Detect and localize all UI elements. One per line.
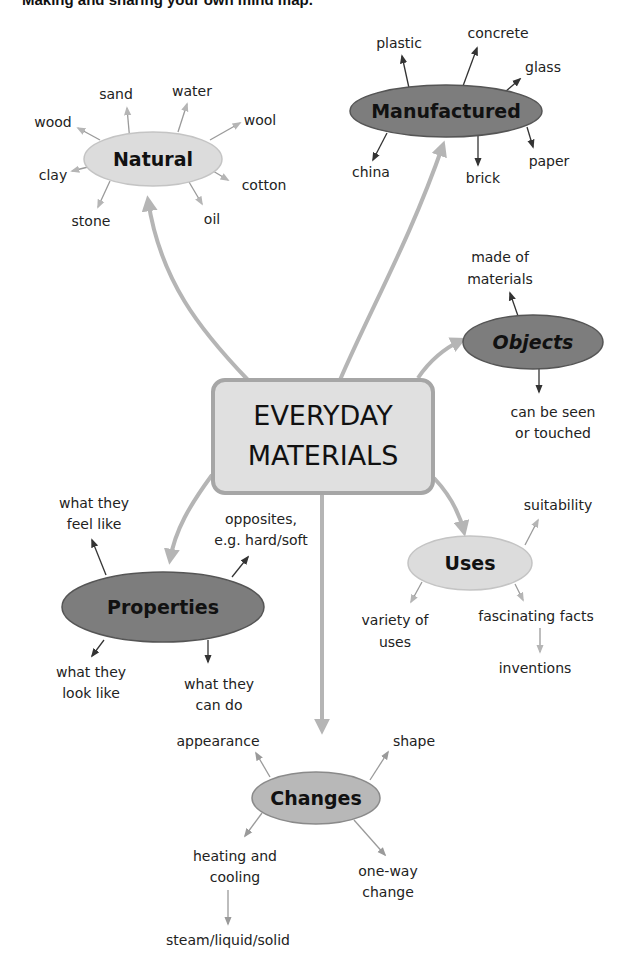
uses-child-inventions: inventions [499, 660, 572, 676]
changes-arrow-appearance [256, 753, 270, 777]
properties-child-feel-l1: what they [59, 495, 129, 511]
uses-child-variety-l2: uses [379, 634, 411, 650]
properties-child-look-l2: look like [62, 685, 120, 701]
node-natural: Natural sand water wood wool clay cotton… [34, 83, 286, 229]
objects-child-seen-l1: can be seen [511, 404, 596, 420]
properties-child-feel-l2: feel like [67, 516, 122, 532]
properties-arrow-opposites [232, 557, 248, 577]
manufactured-child-brick: brick [466, 170, 501, 186]
properties-child-look-l1: what they [56, 664, 126, 680]
natural-child-oil: oil [204, 211, 220, 227]
uses-child-variety-l1: variety of [362, 612, 430, 628]
properties-child-do-l2: can do [195, 697, 242, 713]
center-title-line2: MATERIALS [248, 440, 399, 471]
changes-arrow-heating [245, 813, 262, 836]
node-uses: Uses suitability variety of uses fascina… [362, 497, 594, 676]
uses-arrow-facts [515, 584, 523, 600]
connector-manufactured [340, 145, 443, 380]
connector-natural [148, 200, 248, 380]
center-node: EVERYDAY MATERIALS [213, 380, 433, 493]
node-objects: Objects made of materials can be seen or… [463, 249, 603, 441]
changes-child-oneway-l2: change [362, 884, 414, 900]
objects-child-made-of-l2: materials [467, 271, 533, 287]
natural-child-sand: sand [99, 86, 133, 102]
objects-child-made-of-l1: made of [471, 249, 530, 265]
node-manufactured: Manufactured plastic concrete glass chin… [350, 25, 570, 186]
changes-child-shape: shape [393, 733, 435, 749]
uses-label: Uses [445, 552, 496, 574]
mind-map: EVERYDAY MATERIALS Natural sand water wo… [0, 0, 622, 979]
objects-label: Objects [493, 331, 574, 353]
natural-label: Natural [113, 148, 193, 170]
manufactured-child-concrete: concrete [468, 25, 529, 41]
node-properties: Properties what they feel like opposites… [56, 495, 308, 713]
natural-child-clay: clay [39, 167, 67, 183]
properties-arrow-feel [92, 540, 106, 575]
manufactured-label: Manufactured [371, 100, 521, 122]
properties-child-opposites-l1: opposites, [225, 511, 297, 527]
natural-child-wood: wood [34, 114, 71, 130]
connector-objects [418, 340, 462, 378]
changes-child-appearance: appearance [176, 733, 259, 749]
properties-child-opposites-l2: e.g. hard/soft [214, 532, 308, 548]
manufactured-child-paper: paper [529, 153, 570, 169]
changes-child-steam: steam/liquid/solid [166, 932, 290, 948]
connector-uses [434, 478, 464, 532]
center-box [213, 380, 433, 493]
manufactured-child-china: china [352, 164, 390, 180]
uses-arrow-suitability [525, 520, 538, 545]
changes-child-heating-l1: heating and [193, 848, 277, 864]
manufactured-child-plastic: plastic [376, 35, 422, 51]
node-changes: Changes appearance shape heating and coo… [166, 733, 435, 948]
natural-child-wool: wool [244, 112, 276, 128]
objects-arrow-up [510, 293, 518, 316]
objects-child-seen-l2: or touched [515, 425, 591, 441]
natural-child-water: water [172, 83, 212, 99]
changes-arrow-oneway [354, 820, 385, 855]
properties-label: Properties [107, 596, 219, 618]
natural-child-stone: stone [72, 213, 111, 229]
natural-child-cotton: cotton [242, 177, 287, 193]
changes-child-oneway-l1: one-way [358, 863, 417, 879]
changes-arrow-shape [370, 752, 388, 780]
uses-child-facts: fascinating facts [478, 608, 593, 624]
properties-child-do-l1: what they [184, 676, 254, 692]
properties-arrow-look [92, 640, 104, 656]
center-title-line1: EVERYDAY [253, 400, 393, 431]
changes-child-heating-l2: cooling [210, 869, 260, 885]
changes-label: Changes [270, 787, 362, 809]
uses-child-suitability: suitability [524, 497, 592, 513]
connector-properties [170, 475, 212, 560]
uses-arrow-variety [411, 582, 422, 602]
manufactured-child-glass: glass [525, 59, 561, 75]
